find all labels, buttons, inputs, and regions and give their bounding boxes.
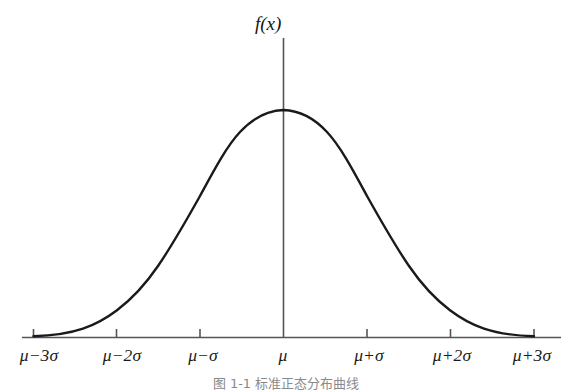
tick-label-mu-plus-3sigma: μ+3σ bbox=[513, 347, 551, 365]
figure-caption: 图 1-1 标准正态分布曲线 bbox=[0, 377, 572, 391]
y-axis-label: f(x) bbox=[255, 14, 281, 33]
tick-label-mu-minus-sigma: μ−σ bbox=[188, 347, 218, 365]
tick-label-mu-minus-3sigma: μ−3σ bbox=[20, 347, 58, 365]
tick-label-mu-plus-2sigma: μ+2σ bbox=[433, 347, 471, 365]
tick-label-mu-minus-2sigma: μ−2σ bbox=[103, 347, 141, 365]
tick-label-mu-plus-sigma: μ+σ bbox=[354, 347, 384, 365]
distribution-plot-svg bbox=[0, 0, 572, 391]
normal-distribution-figure: f(x) μ−3σ μ−2σ μ−σ μ μ+σ μ+2σ μ+3σ 图 1-1… bbox=[0, 0, 572, 391]
tick-label-mu: μ bbox=[279, 347, 288, 365]
